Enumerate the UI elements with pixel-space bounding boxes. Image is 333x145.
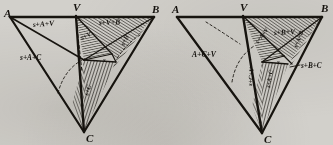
region-label-s-B-C: s+B+C	[300, 62, 322, 70]
left-diagram: A V B C s+A+V s+V+B s+A+C s+V s+B s+C s …	[0, 0, 166, 145]
vertex-label-C: C	[264, 133, 272, 145]
figure-root: A V B C s+A+V s+V+B s+A+C s+V s+B s+C s …	[0, 0, 333, 145]
center-point-label-left: s	[102, 56, 106, 64]
vertex-label-B: B	[320, 2, 328, 14]
region-label-A-C-V: A+C+V	[191, 50, 217, 59]
vertex-label-B: B	[151, 3, 159, 15]
vertex-label-A: A	[171, 3, 179, 15]
vertex-label-V: V	[73, 1, 82, 13]
vertex-label-A: A	[3, 7, 11, 19]
vertex-label-V: V	[240, 1, 249, 13]
edge-A-C	[10, 17, 84, 132]
leader-s-B-C	[290, 65, 300, 67]
region-label-s-A-V: s+A+V	[32, 18, 56, 29]
region-label-s-V-B: s+V+B	[98, 17, 121, 27]
right-diagram: A V B C A+C+V s+B+V s+A+V s+A+B s+C+V s+…	[166, 0, 333, 145]
region-label-s-B-V: s+B+V	[273, 27, 297, 37]
region-label-s-A-C: s+A+C	[19, 53, 41, 62]
vertex-label-C: C	[86, 132, 94, 144]
center-point-label-right: s	[276, 58, 280, 66]
dashed-arc-upper	[206, 22, 240, 44]
